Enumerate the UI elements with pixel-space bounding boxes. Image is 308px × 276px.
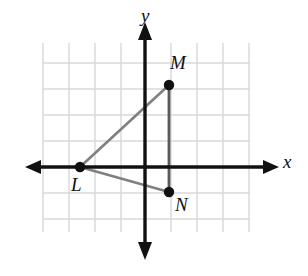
x-axis-label: x xyxy=(283,152,291,171)
segment-LN xyxy=(80,167,169,192)
segment-LM xyxy=(80,85,169,167)
point-M xyxy=(164,80,174,90)
point-label-N: N xyxy=(175,195,188,214)
x-axis-arrow-left xyxy=(25,160,41,174)
y-axis-arrow-down xyxy=(138,242,152,260)
x-axis-arrow-right xyxy=(263,160,279,174)
plot-canvas xyxy=(0,0,308,276)
point-label-L: L xyxy=(71,175,82,194)
triangle-segments xyxy=(80,85,169,192)
point-L xyxy=(75,162,85,172)
y-axis-label: y xyxy=(141,6,149,25)
coordinate-plane-figure: y x L M N xyxy=(0,0,308,276)
point-N xyxy=(164,187,174,197)
point-label-M: M xyxy=(170,53,186,72)
